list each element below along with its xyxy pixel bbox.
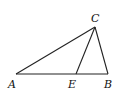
triangle-diagram: C A E B xyxy=(0,0,125,93)
segment-ce xyxy=(76,27,95,74)
label-a: A xyxy=(7,78,16,91)
label-e: E xyxy=(67,78,76,91)
segment-bc xyxy=(95,27,108,74)
label-b: B xyxy=(103,78,112,91)
segment-ca xyxy=(16,27,95,74)
label-c: C xyxy=(91,12,100,25)
